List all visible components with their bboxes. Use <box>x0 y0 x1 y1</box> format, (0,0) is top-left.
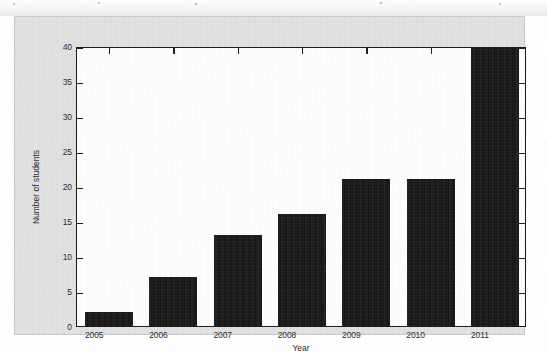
bar-2007 <box>214 235 262 326</box>
y-tick-label: 40 <box>48 42 72 52</box>
x-tick-mark <box>302 320 303 326</box>
x-tick-mark-top <box>366 48 367 54</box>
x-tick-mark <box>173 320 174 326</box>
bar-2009 <box>342 179 390 326</box>
y-tick-label: 0 <box>48 322 72 332</box>
y-tick-mark <box>77 118 83 119</box>
y-tick-mark <box>77 223 83 224</box>
x-tick-label: 2009 <box>329 330 373 340</box>
x-tick-mark <box>431 320 432 326</box>
x-axis-title: Year <box>76 343 526 353</box>
y-tick-mark-right <box>519 83 525 84</box>
y-tick-label: 35 <box>48 77 72 87</box>
x-tick-label: 2005 <box>72 330 116 340</box>
bar-2011 <box>471 47 519 326</box>
bar-2010 <box>407 179 455 326</box>
y-tick-label: 30 <box>48 112 72 122</box>
x-tick-mark-top <box>173 48 174 54</box>
scan-noise-band <box>0 0 547 16</box>
plot-area <box>76 47 526 327</box>
x-tick-mark-top <box>431 48 432 54</box>
x-tick-label: 2008 <box>265 330 309 340</box>
x-tick-label: 2011 <box>458 330 502 340</box>
x-tick-mark <box>109 320 110 326</box>
x-tick-label: 2010 <box>394 330 438 340</box>
y-tick-mark <box>77 258 83 259</box>
x-tick-mark-top <box>109 48 110 54</box>
y-tick-mark <box>77 48 83 49</box>
y-tick-mark-right <box>519 118 525 119</box>
y-tick-mark-right <box>519 48 525 49</box>
y-tick-mark-right <box>519 188 525 189</box>
y-tick-mark <box>77 83 83 84</box>
y-tick-mark <box>77 153 83 154</box>
y-tick-label: 5 <box>48 287 72 297</box>
figure-canvas: 0510152025303540 20052006200720082009201… <box>14 16 525 335</box>
x-tick-mark <box>366 320 367 326</box>
y-tick-mark-right <box>519 293 525 294</box>
y-tick-label: 20 <box>48 182 72 192</box>
x-tick-mark <box>495 320 496 326</box>
y-tick-mark-right <box>519 153 525 154</box>
x-tick-mark <box>238 320 239 326</box>
y-axis-title: Number of students <box>31 150 41 224</box>
x-tick-label: 2007 <box>201 330 245 340</box>
y-tick-mark <box>77 293 83 294</box>
y-tick-mark-right <box>519 258 525 259</box>
x-tick-label: 2006 <box>136 330 180 340</box>
y-tick-mark <box>77 188 83 189</box>
x-tick-mark-top <box>238 48 239 54</box>
bar-2006 <box>149 277 197 326</box>
y-tick-mark-right <box>519 223 525 224</box>
bar-2008 <box>278 214 326 326</box>
y-tick-label: 15 <box>48 217 72 227</box>
x-tick-mark-top <box>495 48 496 54</box>
bar-series <box>77 48 525 326</box>
y-tick-label: 10 <box>48 252 72 262</box>
x-tick-mark-top <box>302 48 303 54</box>
y-tick-label: 25 <box>48 147 72 157</box>
